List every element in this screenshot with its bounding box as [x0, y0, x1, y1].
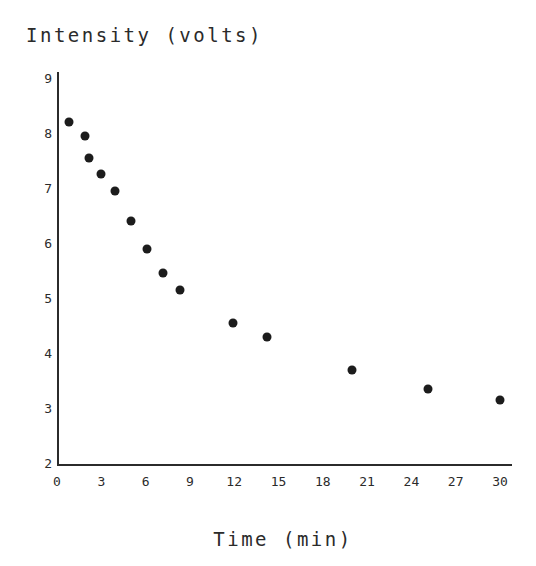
data-point [143, 244, 152, 253]
y-tick-label: 3 [30, 401, 52, 416]
x-tick-label: 30 [492, 474, 508, 489]
y-tick-label: 5 [30, 291, 52, 306]
data-point [348, 365, 357, 374]
data-point [228, 318, 237, 327]
y-tick-label: 9 [30, 71, 52, 86]
x-tick-label: 12 [226, 474, 242, 489]
x-tick-label: 3 [97, 474, 105, 489]
data-point [85, 153, 94, 162]
data-point [64, 118, 73, 127]
plot-area: 23456789 036912151821242730 [0, 0, 536, 566]
data-point [159, 269, 168, 278]
y-tick-label: 6 [30, 236, 52, 251]
x-axis-title: Time (min) [0, 528, 536, 550]
x-tick-label: 15 [271, 474, 287, 489]
x-tick-label: 6 [142, 474, 150, 489]
x-tick-label: 9 [186, 474, 194, 489]
y-tick-label: 4 [30, 346, 52, 361]
data-point [175, 285, 184, 294]
data-point [423, 384, 432, 393]
y-tick-label: 8 [30, 126, 52, 141]
y-tick-label: 2 [30, 456, 52, 471]
data-point [496, 395, 505, 404]
y-axis-line [57, 72, 59, 466]
x-axis-line [57, 464, 512, 466]
data-point [97, 170, 106, 179]
y-tick-label: 7 [30, 181, 52, 196]
data-point [262, 332, 271, 341]
data-point [110, 186, 119, 195]
y-axis-tick-labels: 23456789 [22, 0, 52, 566]
x-tick-label: 24 [404, 474, 420, 489]
x-tick-label: 21 [359, 474, 375, 489]
x-tick-label: 0 [53, 474, 61, 489]
chart-figure: Intensity (volts) 23456789 0369121518212… [0, 0, 536, 566]
x-tick-label: 27 [448, 474, 464, 489]
data-point [126, 217, 135, 226]
x-tick-label: 18 [315, 474, 331, 489]
data-point [81, 131, 90, 140]
